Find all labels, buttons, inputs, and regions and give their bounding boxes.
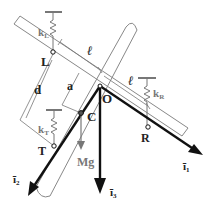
diagram-canvas: L R T O C kL kR kT ℓ ℓ a d Mg ī1 ī2 ī3 bbox=[0, 0, 214, 209]
label-i1: ī1 bbox=[182, 160, 190, 174]
point-O bbox=[98, 84, 102, 88]
label-L: L bbox=[41, 54, 50, 69]
label-kL: kL bbox=[38, 26, 49, 40]
label-T: T bbox=[38, 144, 46, 158]
label-i2: ī2 bbox=[12, 173, 20, 187]
label-R: R bbox=[141, 131, 150, 145]
label-a: a bbox=[67, 79, 73, 93]
point-R bbox=[146, 125, 150, 129]
label-i3: ī3 bbox=[109, 186, 117, 200]
label-O: O bbox=[102, 91, 112, 106]
label-ell-left: ℓ bbox=[87, 43, 93, 58]
point-T bbox=[52, 144, 56, 148]
label-kT: kT bbox=[38, 123, 49, 137]
label-Mg: Mg bbox=[77, 155, 94, 169]
label-ell-right: ℓ bbox=[128, 73, 134, 88]
label-C: C bbox=[87, 109, 96, 124]
point-L bbox=[51, 50, 55, 54]
label-d: d bbox=[34, 82, 42, 97]
point-C bbox=[79, 111, 84, 116]
aircraft-spring-diagram: L R T O C kL kR kT ℓ ℓ a d Mg ī1 ī2 ī3 bbox=[0, 0, 214, 209]
label-kR: kR bbox=[153, 87, 165, 101]
